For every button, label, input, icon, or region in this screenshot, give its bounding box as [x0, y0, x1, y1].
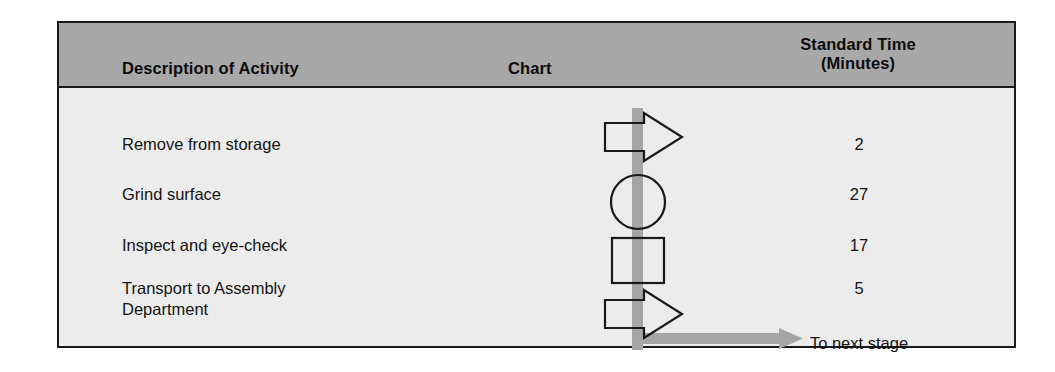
table-row-activity-label: Inspect and eye-check [122, 235, 287, 256]
table-row-activity-label: Grind surface [122, 184, 221, 205]
table-body: Remove from storage Grind surface Inspec… [59, 88, 1014, 346]
column-header-chart: Chart [508, 59, 552, 78]
column-header-standard-time-line2: (Minutes) [708, 54, 1008, 73]
table-header-row: Description of Activity Chart Standard T… [59, 23, 1014, 88]
table-row-activity-label: Transport to Assembly Department [122, 278, 286, 320]
transport-arrow-icon [605, 113, 682, 161]
transport-arrow-icon [605, 290, 682, 338]
flow-chart-diagram [514, 88, 834, 350]
flow-bar-path [632, 108, 803, 350]
process-flow-chart-table: Description of Activity Chart Standard T… [57, 21, 1016, 348]
flow-bar-arrowhead-icon [779, 328, 803, 349]
column-header-standard-time: Standard Time (Minutes) [708, 35, 1008, 73]
column-header-standard-time-line1: Standard Time [800, 35, 916, 53]
table-row-activity-label: Remove from storage [122, 134, 281, 155]
column-header-description: Description of Activity [122, 59, 299, 78]
